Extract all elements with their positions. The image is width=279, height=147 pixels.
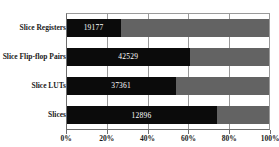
bar-row: 12896 [66, 106, 270, 124]
axis-tick-label: 80% [209, 135, 249, 143]
bar-value-label: 37361 [111, 82, 131, 90]
category-label: Slice Registers [0, 24, 66, 32]
bar-row: 19177 [66, 19, 270, 37]
category-label: Slice Flip-flop Pairs [0, 53, 66, 61]
bar-value-label: 42529 [118, 53, 138, 61]
axis-tick-label: 40% [128, 135, 168, 143]
axis-tick-label: 0% [46, 135, 86, 143]
bar-segment-available [176, 77, 270, 95]
bar-segment-used: 42529 [66, 48, 190, 66]
bar-value-label: 19177 [84, 24, 104, 32]
axis-tick-label: 20% [87, 135, 127, 143]
bar-row: 37361 [66, 77, 270, 95]
bar-segment-available [190, 48, 270, 66]
bar-chart-figure: Slice RegistersSlice Flip-flop PairsSlic… [0, 0, 279, 147]
axis-tick-label: 60% [168, 135, 208, 143]
bar-value-label: 12896 [132, 112, 152, 120]
category-label: Slice LUTs [0, 82, 66, 90]
bar-segment-used: 19177 [66, 19, 121, 37]
axis-tick-label: 100% [250, 135, 279, 143]
bar-segment-used: 37361 [66, 77, 176, 95]
bar-group: 19177425293736112896 [66, 13, 270, 130]
bar-segment-used: 12896 [66, 106, 217, 124]
bar-row: 42529 [66, 48, 270, 66]
plot-area: 19177425293736112896 [66, 13, 270, 130]
category-label: Slices [0, 111, 66, 119]
bar-segment-available [121, 19, 270, 37]
bar-segment-available [217, 106, 270, 124]
